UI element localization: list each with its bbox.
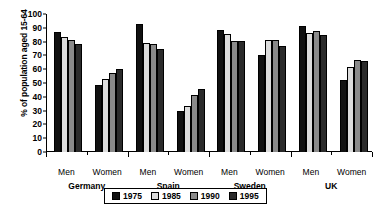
legend-label: 1975 <box>123 191 142 201</box>
legend-item: 1990 <box>190 191 220 201</box>
sex-label: Women <box>93 167 122 177</box>
bar <box>361 61 368 152</box>
bar <box>157 49 164 153</box>
bar <box>265 40 272 152</box>
sex-group <box>258 14 286 152</box>
sex-label: Men <box>140 167 157 177</box>
bar <box>102 79 109 152</box>
bar <box>184 106 191 152</box>
y-tick-label: 40 <box>0 92 46 102</box>
sex-label: Women <box>337 167 366 177</box>
bar <box>68 40 75 152</box>
x-tick-mark <box>168 152 169 155</box>
legend-swatch <box>229 192 237 200</box>
bar <box>258 55 265 152</box>
bar <box>299 26 306 152</box>
bar <box>150 44 157 152</box>
bar <box>143 43 150 152</box>
legend-label: 1995 <box>240 191 259 201</box>
bar <box>191 95 198 152</box>
bar <box>354 60 361 152</box>
legend-item: 1985 <box>151 191 181 201</box>
bar <box>136 24 143 152</box>
legend-label: 1985 <box>162 191 181 201</box>
y-tick-label: 50 <box>0 78 46 88</box>
legend-label: 1990 <box>201 191 220 201</box>
y-tick-label: 30 <box>0 106 46 116</box>
legend-swatch <box>112 192 120 200</box>
sex-group <box>340 14 368 152</box>
y-tick-label: 80 <box>0 37 46 47</box>
bar <box>347 67 354 152</box>
bar <box>231 41 238 152</box>
x-tick-mark <box>250 152 251 155</box>
legend-item: 1975 <box>112 191 142 201</box>
group-separator <box>46 152 47 157</box>
bar <box>75 44 82 152</box>
sex-group <box>136 14 164 152</box>
bar <box>340 80 347 152</box>
x-tick-mark <box>331 152 332 155</box>
country-group <box>128 14 210 152</box>
sex-group <box>54 14 82 152</box>
bar <box>61 37 68 152</box>
bar <box>198 89 205 152</box>
x-tick-mark <box>291 152 292 155</box>
bar <box>217 30 224 152</box>
sex-group <box>177 14 205 152</box>
bar <box>272 40 279 152</box>
country-group <box>291 14 373 152</box>
x-tick-mark <box>128 152 129 155</box>
group-separator <box>372 152 373 157</box>
bar <box>54 32 61 152</box>
x-tick-mark <box>209 152 210 155</box>
bar <box>224 34 231 152</box>
legend-swatch <box>151 192 159 200</box>
sex-group <box>299 14 327 152</box>
bar <box>177 111 184 152</box>
country-label: UK <box>325 181 337 191</box>
legend: 1975198519901995 <box>104 188 267 204</box>
country-group <box>46 14 128 152</box>
y-tick-label: 60 <box>0 64 46 74</box>
bar <box>116 69 123 152</box>
sex-label: Men <box>221 167 238 177</box>
x-tick-mark <box>87 152 88 155</box>
country-group <box>209 14 291 152</box>
legend-swatch <box>190 192 198 200</box>
bar <box>109 73 116 152</box>
y-tick-label: 100 <box>0 9 46 19</box>
bar <box>306 33 313 152</box>
sex-label: Men <box>58 167 75 177</box>
bar <box>313 31 320 152</box>
bar <box>238 41 245 152</box>
y-tick-label: 70 <box>0 50 46 60</box>
bar <box>320 35 327 152</box>
y-tick-label: 10 <box>0 133 46 143</box>
country-label: Germany <box>68 181 105 191</box>
bar <box>279 46 286 152</box>
sex-label: Women <box>174 167 203 177</box>
legend-item: 1995 <box>229 191 259 201</box>
sex-label: Women <box>256 167 285 177</box>
bar <box>95 85 102 152</box>
y-tick-label: 0 <box>0 147 46 157</box>
sex-label: Men <box>303 167 320 177</box>
sex-group <box>217 14 245 152</box>
plot-area: 0102030405060708090100 MenWomenGermanyMe… <box>46 14 372 152</box>
y-tick-label: 90 <box>0 23 46 33</box>
y-tick-label: 20 <box>0 119 46 129</box>
bar-chart: % of population aged 15-64 0102030405060… <box>0 0 377 209</box>
sex-group <box>95 14 123 152</box>
